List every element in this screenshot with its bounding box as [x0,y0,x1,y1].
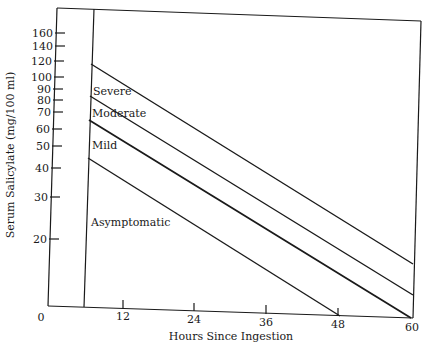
zone-lines [88,64,413,318]
xtick-48: 48 [331,318,345,331]
ytick-30: 30 [34,191,48,204]
ytick-40: 40 [35,162,49,175]
asymptomatic-line [88,158,340,316]
top-border [57,8,421,21]
zone-label-mild: Mild [92,139,117,152]
zone-label-moderate: Moderate [92,107,146,120]
right-border [413,21,421,318]
y-axis-tick-labels: 160 140 120 100 90 80 70 60 50 40 30 20 [31,27,53,246]
ytick-60: 60 [36,123,50,136]
xtick-60: 60 [405,321,419,334]
x-axis-line [48,306,413,318]
ytick-160: 160 [32,27,53,40]
xtick-24: 24 [187,313,201,326]
severe-line [91,64,413,264]
plot-frame [48,8,421,318]
salicylate-nomogram-chart: 160 140 120 100 90 80 70 60 50 40 30 20 … [0,0,426,344]
x-axis-title: Hours Since Ingestion [169,330,293,343]
ytick-120: 120 [31,55,52,68]
y-axis-title: Serum Salicylate (mg/100 ml) [4,72,17,239]
ytick-20: 20 [33,233,47,246]
ytick-50: 50 [36,140,50,153]
xtick-12: 12 [116,310,130,323]
ytick-140: 140 [32,40,53,53]
ytick-70: 70 [37,106,51,119]
x-axis-ticks [123,300,338,316]
xtick-0: 0 [38,311,45,324]
zone-label-asymptomatic: Asymptomatic [90,216,170,229]
zone-label-severe: Severe [93,85,132,98]
xtick-36: 36 [259,316,273,329]
moderate-line [90,96,413,295]
